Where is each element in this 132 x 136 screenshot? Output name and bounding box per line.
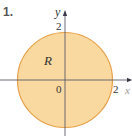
problem-number: 1. [3, 6, 13, 18]
x-tick-label: 2 [113, 84, 119, 95]
figure: 1. y 2 R 0 2 x [0, 0, 132, 136]
y-tick-label: 2 [56, 21, 62, 32]
region-label: R [44, 54, 52, 67]
y-axis-label: y [55, 6, 60, 18]
x-axis-arrow-icon [127, 78, 132, 82]
plot-svg [0, 0, 132, 136]
x-axis-label: x [125, 85, 130, 96]
y-axis-arrow-icon [63, 10, 67, 16]
origin-label: 0 [56, 84, 62, 95]
